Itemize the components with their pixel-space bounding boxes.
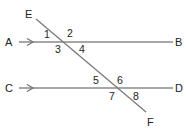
angle-label-3: 3 bbox=[55, 43, 61, 55]
angle-label-1: 1 bbox=[44, 28, 50, 40]
point-label-d: D bbox=[175, 82, 183, 94]
angle-label-4: 4 bbox=[79, 43, 85, 55]
angle-label-8: 8 bbox=[133, 90, 139, 102]
angle-label-5: 5 bbox=[93, 74, 99, 86]
point-label-f: F bbox=[147, 116, 154, 128]
angle-label-2: 2 bbox=[67, 27, 73, 39]
point-label-b: B bbox=[175, 36, 182, 48]
angle-label-7: 7 bbox=[109, 90, 115, 102]
parallel-lines-transversal-diagram: A B C D E F 1 2 3 4 5 6 7 8 bbox=[0, 0, 186, 132]
angle-label-6: 6 bbox=[117, 74, 123, 86]
line-ab bbox=[19, 39, 173, 46]
point-label-c: C bbox=[5, 82, 13, 94]
point-label-e: E bbox=[25, 8, 32, 20]
point-label-a: A bbox=[5, 36, 13, 48]
transversal-ef bbox=[36, 19, 146, 112]
